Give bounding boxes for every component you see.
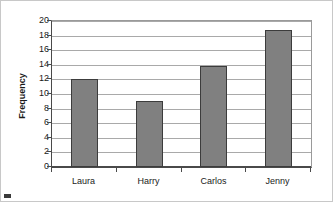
y-axis-tick-label: 6 [27, 117, 49, 127]
bar[interactable] [265, 30, 292, 167]
bar[interactable] [200, 66, 227, 167]
y-axis-tick-mark [47, 122, 51, 123]
y-axis-tick-mark [47, 108, 51, 109]
y-axis-tick-label: 4 [27, 132, 49, 142]
y-axis-tick-mark [47, 49, 51, 50]
x-axis-tick-marks [51, 168, 312, 173]
scan-artifact-mark [4, 194, 11, 198]
y-axis-tick-label: 8 [27, 103, 49, 113]
y-axis-tick-label: 10 [27, 88, 49, 98]
x-axis-tick-mark [181, 168, 182, 172]
bars-layer [52, 21, 311, 167]
x-axis-tick-label: Jenny [245, 175, 310, 187]
y-axis-tick-mark [47, 35, 51, 36]
x-axis-tick-mark [51, 168, 52, 172]
x-axis-tick-label: Carlos [181, 175, 246, 187]
chart-frame: Frequency 02468101214161820 LauraHarryCa… [0, 0, 333, 202]
y-axis-title-label: Frequency [17, 73, 27, 119]
y-axis-tick-mark [47, 78, 51, 79]
bar[interactable] [71, 79, 98, 167]
bar[interactable] [136, 101, 163, 167]
x-axis-tick-label: Harry [116, 175, 181, 187]
y-axis-tick-labels: 02468101214161820 [27, 14, 49, 174]
x-axis-tick-mark [310, 168, 311, 172]
x-axis-tick-labels: LauraHarryCarlosJenny [51, 175, 312, 189]
x-axis-tick-mark [245, 168, 246, 172]
y-axis-tick-mark [47, 151, 51, 152]
y-axis-tick-label: 20 [27, 15, 49, 25]
y-axis-tick-mark [47, 93, 51, 94]
y-axis-tick-label: 14 [27, 59, 49, 69]
y-axis-tick-label: 0 [27, 161, 49, 171]
y-axis-tick-label: 2 [27, 146, 49, 156]
y-axis-tick-mark [47, 137, 51, 138]
y-axis-tick-mark [47, 166, 51, 167]
plot-area [51, 20, 312, 168]
y-axis-tick-mark [47, 20, 51, 21]
x-axis-tick-label: Laura [51, 175, 116, 187]
y-axis-tick-label: 18 [27, 30, 49, 40]
x-axis-tick-mark [116, 168, 117, 172]
y-axis-tick-label: 16 [27, 44, 49, 54]
y-axis-tick-label: 12 [27, 73, 49, 83]
y-axis-tick-mark [47, 64, 51, 65]
